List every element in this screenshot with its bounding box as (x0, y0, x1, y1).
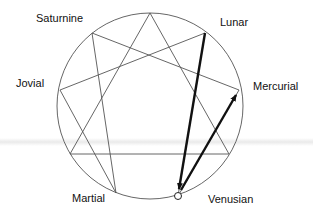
enneagram-diagram (0, 0, 313, 216)
venusian-point-marker (175, 193, 182, 200)
label-mercurial: Mercurial (253, 80, 298, 92)
label-martial: Martial (72, 192, 105, 204)
arrow-venusian-to-mercurial (181, 95, 236, 190)
label-venusian: Venusian (208, 193, 253, 205)
hexad-line (60, 33, 239, 196)
label-lunar: Lunar (220, 16, 248, 28)
outer-circle (57, 13, 243, 199)
arrow-lunar-to-venusian (179, 33, 205, 189)
label-saturnine: Saturnine (36, 12, 83, 24)
label-jovial: Jovial (16, 77, 44, 89)
